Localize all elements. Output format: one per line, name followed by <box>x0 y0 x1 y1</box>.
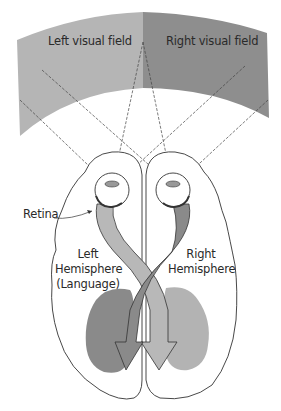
right-hemisphere-label: Right Hemisphere <box>168 247 234 277</box>
right-hemisphere-line2: Hemisphere <box>168 262 234 277</box>
right-eye <box>156 173 190 207</box>
visual-field-band <box>17 12 269 136</box>
left-visual-field-region <box>17 12 143 136</box>
left-eye <box>95 173 129 207</box>
retina-label: Retina <box>23 209 58 221</box>
right-eye-lens <box>166 181 180 187</box>
right-hemisphere-line1: Right <box>168 247 234 262</box>
left-hemisphere-line2: Hemisphere <box>55 262 121 277</box>
right-visual-field-label: Right visual field <box>166 36 258 48</box>
left-visual-field-label: Left visual field <box>48 36 132 48</box>
left-eye-lens <box>105 181 119 187</box>
right-visual-field-region <box>143 12 269 118</box>
visual-pathway-diagram <box>0 0 281 411</box>
left-hemisphere-line1: Left <box>55 247 121 262</box>
left-hemisphere-line3: (Language) <box>55 277 121 292</box>
left-hemisphere-label: Left Hemisphere (Language) <box>55 247 121 292</box>
